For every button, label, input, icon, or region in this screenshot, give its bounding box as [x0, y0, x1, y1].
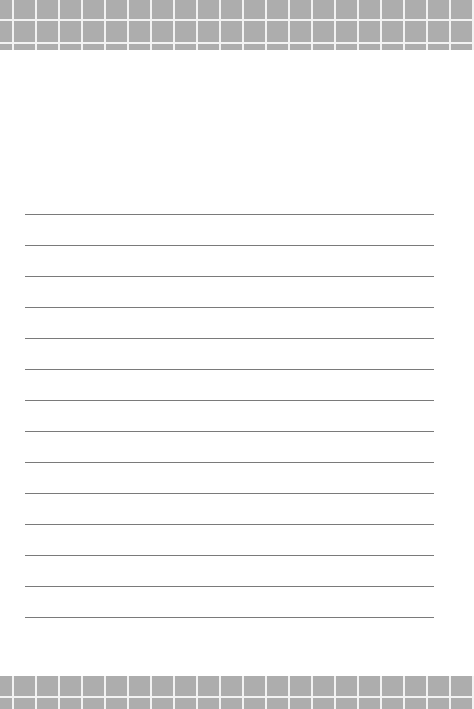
ruled-line [25, 214, 434, 215]
ruled-line [25, 245, 434, 246]
ruled-line [25, 555, 434, 556]
ruled-line [25, 338, 434, 339]
ruled-lines [25, 0, 434, 709]
bottom-grid-border [0, 676, 474, 709]
ruled-line [25, 431, 434, 432]
ruled-line [25, 493, 434, 494]
ruled-line [25, 276, 434, 277]
ruled-line [25, 586, 434, 587]
ruled-line [25, 307, 434, 308]
ruled-line [25, 524, 434, 525]
ruled-line [25, 400, 434, 401]
ruled-line [25, 462, 434, 463]
ruled-line [25, 617, 434, 618]
ruled-line [25, 369, 434, 370]
